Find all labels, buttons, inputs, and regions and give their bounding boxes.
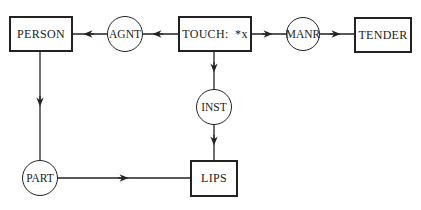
concept-person-label: PERSON [17,27,65,42]
relation-inst: INST [196,89,232,125]
concept-tender: TENDER [354,17,412,53]
relation-agnt: AGNT [107,16,143,52]
relation-agnt-label: AGNT [109,28,141,40]
concept-touch-label: TOUCH: *x [182,27,247,42]
concept-lips-label: LIPS [201,171,227,186]
relation-manr-label: MANR [286,28,321,40]
relation-inst-label: INST [201,101,227,113]
relation-part-label: PART [26,172,54,184]
concept-tender-label: TENDER [358,28,407,43]
concept-touch: TOUCH: *x [178,16,252,52]
relation-part: PART [22,160,58,196]
concept-lips: LIPS [190,160,238,197]
relation-manr: MANR [286,17,320,51]
concept-person: PERSON [9,16,73,52]
